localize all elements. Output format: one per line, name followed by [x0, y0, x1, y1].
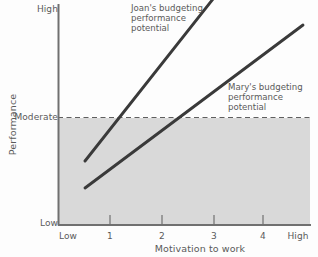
- x-axis-high-label: High: [284, 231, 312, 242]
- series-label-mary: Mary's budgeting performance potential: [228, 82, 303, 113]
- x-axis-tick-label-2: 2: [155, 231, 169, 242]
- chart-figure: High Moderate Low Low 1 2 3 4 High Motiv…: [0, 0, 318, 257]
- x-axis-title: Motivation to work: [140, 243, 260, 254]
- x-axis-tick-label-3: 3: [207, 231, 221, 242]
- y-axis-high-label: High: [36, 4, 58, 15]
- x-axis-tick-label-4: 4: [256, 231, 270, 242]
- y-axis-title: Performance: [7, 85, 18, 165]
- series-label-joan: Joan's budgeting performance potential: [131, 3, 203, 34]
- x-axis-tick-label-1: 1: [103, 231, 117, 242]
- x-axis-low-label: Low: [55, 231, 81, 242]
- below-moderate-shaded-region: [59, 118, 310, 225]
- y-axis-low-label: Low: [36, 218, 58, 229]
